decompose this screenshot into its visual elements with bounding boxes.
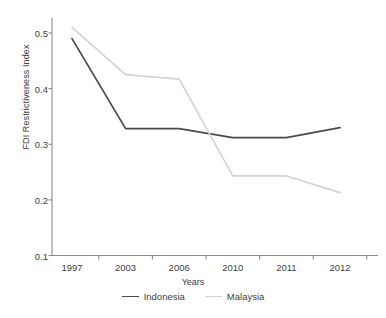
x-axis-tick-label: 2003 <box>115 262 136 273</box>
legend-label: Indonesia <box>144 291 185 302</box>
fdi-restrictiveness-line-chart: FDI Restrictiveness Index 0.10.20.30.40.… <box>0 0 386 318</box>
chart-legend: IndonesiaMalaysia <box>0 291 386 302</box>
x-axis-tick-label: 2012 <box>329 262 350 273</box>
x-axis-tick-label: 2006 <box>169 262 190 273</box>
series-line-malaysia <box>72 27 340 192</box>
x-axis-title: Years <box>0 277 386 287</box>
legend-line-swatch <box>205 296 222 297</box>
plot-area <box>0 0 386 318</box>
legend-line-swatch <box>122 296 139 297</box>
legend-item-malaysia[interactable]: Malaysia <box>205 291 265 302</box>
x-axis-tick-label: 2010 <box>222 262 243 273</box>
legend-item-indonesia[interactable]: Indonesia <box>122 291 185 302</box>
x-axis-tick-label: 1997 <box>61 262 82 273</box>
x-axis-tick-label: 2011 <box>276 262 296 273</box>
series-line-indonesia <box>72 39 340 138</box>
legend-label: Malaysia <box>227 291 265 302</box>
